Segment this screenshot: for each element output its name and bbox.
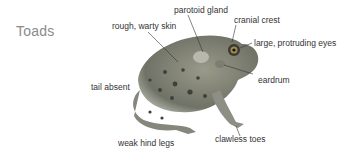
label-tail: tail absent — [91, 82, 130, 92]
label-toes: clawless toes — [215, 134, 266, 144]
label-cranial-crest: cranial crest — [234, 15, 280, 25]
label-eyes: large, protruding eyes — [254, 38, 336, 48]
label-hind-legs: weak hind legs — [118, 138, 174, 148]
label-eardrum: eardrum — [258, 75, 290, 85]
label-rough-skin: rough, warty skin — [112, 21, 176, 31]
label-parotoid-gland: parotoid gland — [174, 5, 228, 15]
